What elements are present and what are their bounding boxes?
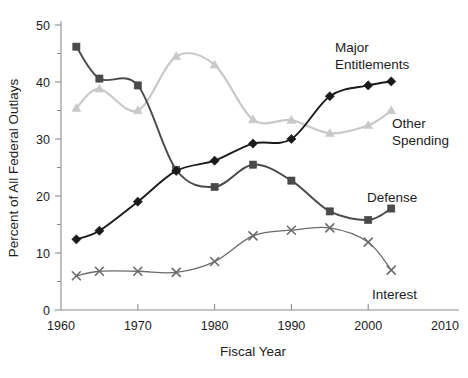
series-line — [76, 227, 391, 276]
data-point-diamond — [387, 77, 396, 86]
series-label-major-entitlements-line2: Entitlements — [335, 57, 410, 72]
chart-container: 01020304050196019701980199020002010 Majo… — [0, 0, 468, 378]
series-lines — [72, 43, 396, 280]
series-major-entitlements — [72, 77, 396, 244]
x-axis-title: Fiscal Year — [220, 344, 287, 359]
series-label-other-spending-line1: Other — [392, 116, 426, 131]
series-label-interest: Interest — [372, 287, 417, 302]
y-tick-label: 30 — [36, 133, 50, 147]
series-label-other-spending-line2: Spending — [392, 133, 449, 148]
x-tick-label: 2010 — [431, 319, 459, 333]
data-point-square — [134, 82, 141, 89]
series-label-major-entitlements-line1: Major — [335, 40, 369, 55]
x-tick-label: 1990 — [277, 319, 305, 333]
x-tick-label: 2000 — [354, 319, 382, 333]
data-point-triangle — [387, 106, 396, 114]
series-label-defense: Defense — [367, 190, 417, 205]
y-tick-label: 10 — [36, 247, 50, 261]
y-tick-label: 20 — [36, 190, 50, 204]
data-point-square — [326, 208, 333, 215]
data-point-square — [388, 205, 395, 212]
x-tick-label: 1980 — [201, 319, 229, 333]
data-point-diamond — [364, 81, 373, 90]
federal-outlays-line-chart: 01020304050196019701980199020002010 Majo… — [0, 0, 468, 378]
x-tick-label: 1960 — [47, 319, 75, 333]
y-axis-title: Percent of All Federal Outlays — [6, 78, 21, 257]
data-point-square — [288, 177, 295, 184]
x-tick-label: 1970 — [124, 319, 152, 333]
data-point-diamond — [248, 139, 257, 148]
data-point-square — [211, 183, 218, 190]
data-point-diamond — [72, 235, 81, 244]
y-tick-label: 0 — [43, 304, 50, 318]
series-line — [76, 81, 391, 239]
y-tick-label: 50 — [36, 19, 50, 33]
data-point-square — [249, 161, 256, 168]
data-point-square — [365, 216, 372, 223]
data-point-diamond — [210, 156, 219, 165]
series-interest — [72, 224, 395, 280]
data-point-square — [96, 75, 103, 82]
y-tick-label: 40 — [36, 76, 50, 90]
data-point-square — [73, 43, 80, 50]
